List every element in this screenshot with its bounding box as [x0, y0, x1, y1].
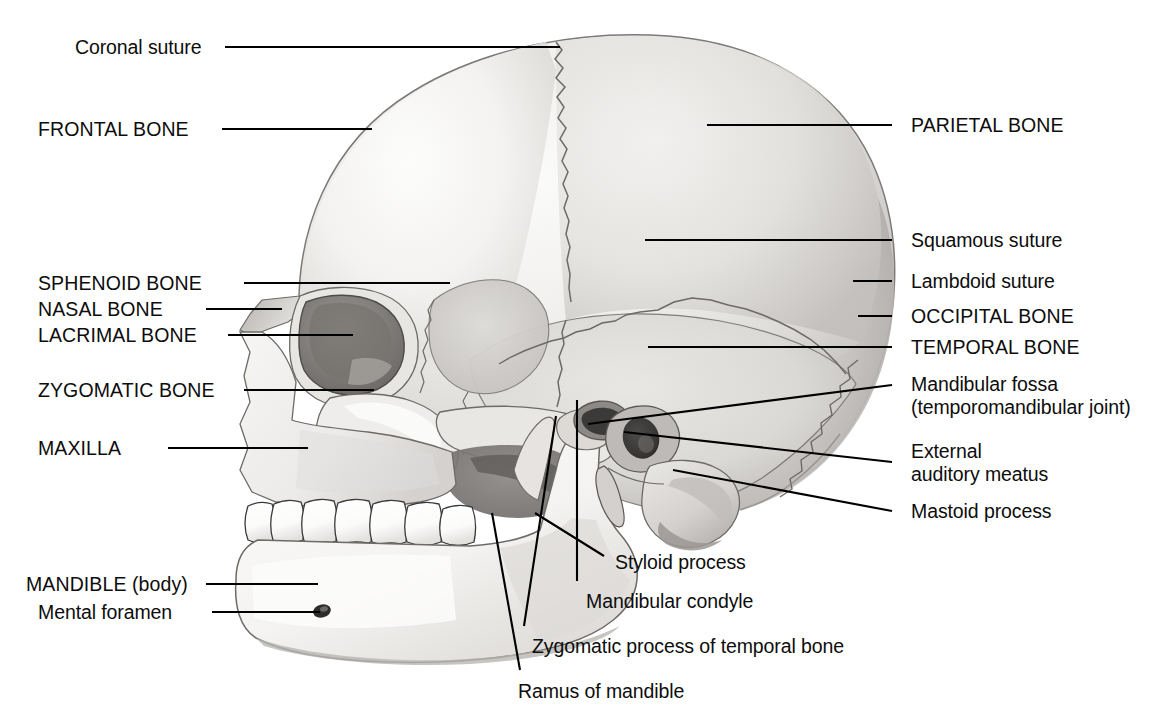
label-mental-foramen: Mental foramen: [38, 601, 172, 625]
label-maxilla: MAXILLA: [38, 437, 121, 461]
label-zygomatic-bone: ZYGOMATIC BONE: [38, 379, 215, 403]
label-occipital-bone: OCCIPITAL BONE: [911, 305, 1074, 329]
label-frontal-bone: FRONTAL BONE: [38, 118, 189, 142]
tooth-upper-6: [405, 502, 443, 545]
skull-diagram-figure: Coronal sutureFRONTAL BONESPHENOID BONEN…: [0, 0, 1176, 716]
label-nasal-bone: NASAL BONE: [38, 298, 163, 322]
label-mandibular-fossa-2: (temporomandibular joint): [911, 396, 1131, 420]
label-ramus-of-mandible: Ramus of mandible: [518, 680, 684, 704]
label-mandibular-condyle: Mandibular condyle: [586, 590, 753, 614]
tooth-upper-2: [271, 500, 305, 543]
label-lambdoid-suture: Lambdoid suture: [911, 270, 1055, 294]
upper-teeth-group: [245, 499, 476, 545]
label-temporal-bone: TEMPORAL BONE: [911, 336, 1080, 360]
tooth-upper-4: [335, 499, 373, 545]
label-styloid-process: Styloid process: [615, 551, 746, 575]
label-mastoid-process: Mastoid process: [911, 500, 1051, 524]
label-sphenoid-bone: SPHENOID BONE: [38, 272, 202, 296]
label-parietal-bone: PARIETAL BONE: [911, 114, 1064, 138]
label-mandibular-fossa: Mandibular fossa: [911, 373, 1058, 397]
tooth-upper-7: [440, 505, 476, 545]
label-lacrimal-bone: LACRIMAL BONE: [38, 324, 197, 348]
label-external-meatus: External: [911, 440, 982, 464]
tooth-upper-5: [370, 500, 408, 545]
label-mandible-body: MANDIBLE (body): [26, 573, 188, 597]
mandible-body-highlight: [252, 554, 456, 628]
tooth-upper-3: [302, 499, 338, 544]
parietal-bone-region: [556, 36, 881, 342]
label-zygomatic-process: Zygomatic process of temporal bone: [532, 635, 844, 659]
label-coronal-suture: Coronal suture: [75, 36, 202, 60]
label-external-meatus-2: auditory meatus: [911, 463, 1048, 487]
label-squamous-suture: Squamous suture: [911, 229, 1062, 253]
